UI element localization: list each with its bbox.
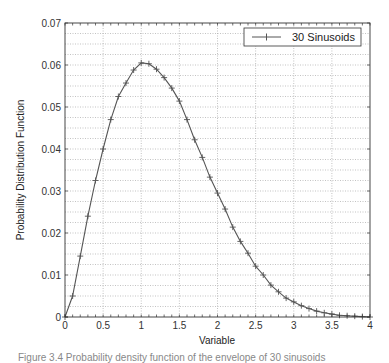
y-tick-label: 0.02 — [42, 228, 62, 239]
y-tick-label: 0.03 — [42, 186, 62, 197]
plus-marker-icon — [70, 293, 76, 299]
x-tick-label: 2 — [215, 320, 221, 331]
plus-marker-icon — [298, 303, 304, 309]
x-tick-label: 3.5 — [325, 320, 339, 331]
x-tick-label: 3 — [291, 320, 297, 331]
plus-marker-icon — [192, 137, 198, 143]
x-tick-label: 0 — [62, 320, 68, 331]
x-tick-label: 1.5 — [172, 320, 186, 331]
y-tick-label: 0.04 — [42, 144, 62, 155]
plus-marker-icon — [245, 250, 251, 256]
y-tick-label: 0.06 — [42, 60, 62, 71]
figure-caption: Figure 3.4 Probability density function … — [18, 352, 325, 363]
y-tick-label: 0.01 — [42, 270, 62, 281]
plus-marker-icon — [100, 146, 106, 152]
plus-marker-icon — [93, 178, 99, 184]
plus-marker-icon — [123, 80, 129, 86]
plus-marker-icon — [291, 299, 297, 305]
plus-marker-icon — [230, 224, 236, 230]
plus-marker-icon — [222, 206, 228, 212]
plus-marker-icon — [176, 98, 182, 104]
plus-marker-icon — [184, 117, 190, 123]
plus-marker-icon — [314, 308, 320, 314]
plus-marker-icon — [115, 94, 121, 100]
y-axis-label: Probability Distribution Function — [15, 100, 26, 241]
x-tick-label: 1 — [138, 320, 144, 331]
plus-marker-icon — [85, 213, 91, 219]
plus-marker-icon — [207, 174, 213, 180]
legend-label: 30 Sinusoids — [292, 31, 355, 43]
grid-lines — [65, 23, 370, 317]
x-tick-label: 0.5 — [96, 320, 110, 331]
x-axis-label: Variable — [199, 335, 235, 346]
y-tick-label: 0.05 — [42, 102, 62, 113]
x-tick-label: 2.5 — [249, 320, 263, 331]
legend: 30 Sinusoids — [244, 28, 361, 46]
tick-labels: 00.511.522.533.5400.010.020.030.040.050.… — [42, 18, 374, 332]
y-tick-label: 0 — [55, 312, 61, 323]
y-tick-label: 0.07 — [42, 18, 62, 29]
plus-marker-icon — [306, 306, 312, 312]
x-tick-label: 4 — [367, 320, 373, 331]
